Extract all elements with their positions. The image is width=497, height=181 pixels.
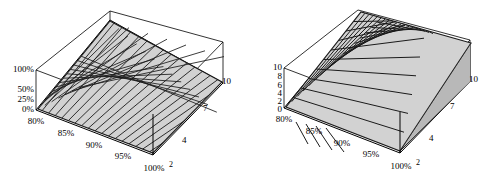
left-y-tick-0: 2 [169, 160, 173, 169]
right-x-tick-4: 100% [391, 161, 413, 171]
right-y-tick-1: 4 [429, 133, 434, 143]
left-surface-mesh [38, 21, 249, 163]
left-z-tick-3: 0% [22, 104, 35, 114]
chart-right-surface: 10 8 6 4 2 0 80% 85% 90% 95% 100% 2 4 7 … [248, 0, 497, 181]
left-y-tick-1: 4 [182, 135, 187, 145]
figure-surface-plot-pair: 100% 50% 25% 0% 80% 85% 90% 95% 100% 2 4… [0, 0, 497, 181]
chart-left-surface: 100% 50% 25% 0% 80% 85% 90% 95% 100% 2 4… [0, 0, 249, 181]
right-x-tick-3: 95% [363, 149, 380, 159]
left-y-tick-2: 7 [203, 103, 208, 113]
right-z-tick-5: 0 [278, 104, 283, 114]
left-z-tick-0: 100% [13, 64, 35, 74]
right-x-tick-1: 85% [306, 126, 323, 136]
right-x-tick-2: 90% [334, 138, 351, 148]
left-x-tick-3: 95% [115, 151, 132, 161]
left-x-tick-4: 100% [144, 163, 166, 173]
right-y-tick-3: 10 [469, 74, 479, 84]
left-x-tick-1: 85% [58, 128, 75, 138]
left-x-tick-0: 80% [28, 116, 45, 126]
left-y-tick-3: 10 [222, 76, 232, 86]
left-x-tick-2: 90% [86, 140, 103, 150]
left-z-tick-1: 50% [18, 84, 35, 94]
left-z-axis-labels: 100% 50% 25% 0% [13, 64, 35, 114]
right-z-axis-labels: 10 8 6 4 2 0 [273, 62, 283, 114]
right-x-tick-0: 80% [276, 114, 293, 124]
right-y-tick-0: 2 [416, 158, 420, 167]
left-z-tick-2: 25% [18, 94, 35, 104]
right-y-tick-2: 7 [450, 101, 455, 111]
